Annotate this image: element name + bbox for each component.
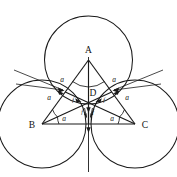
angle-arc-b-lower: [57, 117, 59, 124]
vertex-label-b: B: [29, 120, 35, 130]
angle-arc-c-lower: [118, 117, 120, 124]
side-label-ab-upper: a: [60, 75, 64, 84]
side-label-ac-lower: a: [125, 93, 129, 102]
angle-arc-a-right: [89, 82, 105, 88]
geometry-figure: A B C D a a a a a a f f f f: [0, 0, 177, 177]
figure-canvas: A B C D a a a a a a f f f f: [0, 0, 177, 177]
force-head-a2: [86, 127, 90, 133]
vertex-label-c: C: [142, 120, 148, 130]
angle-arc-c-upper: [120, 110, 125, 118]
angle-arc-a-left: [73, 82, 89, 88]
force-label-2: f: [92, 109, 95, 115]
vertex-label-a: A: [85, 45, 92, 55]
side-label-ab-lower: a: [47, 93, 51, 102]
force-head-a: [86, 107, 90, 113]
angle-arc-b-upper: [53, 110, 58, 118]
force-arrow-from-a: [86, 106, 90, 133]
side-label-bc-right: a: [110, 114, 114, 123]
side-label-bc-left: a: [62, 114, 66, 123]
side-label-ac-upper: a: [112, 75, 116, 84]
vertex-label-d: D: [90, 88, 97, 98]
